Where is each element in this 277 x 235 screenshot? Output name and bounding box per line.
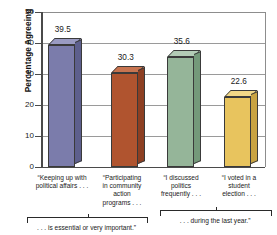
y-tick-label-50: 50: [4, 7, 34, 16]
y-tick-10: [35, 136, 43, 137]
category-label-1-line-1: in community: [88, 182, 156, 190]
bracket-right-stem: [216, 207, 217, 211]
bar-chart: Percentage Agreeing 50 40 30 20 10 0 39.…: [0, 0, 277, 235]
bracket-left: [27, 217, 148, 223]
y-axis-line: [41, 12, 43, 168]
y-tick-label-30: 30: [4, 69, 34, 78]
bracket-right: [160, 210, 272, 216]
y-axis-title: Percentage Agreeing: [24, 0, 33, 111]
category-label-1-line-2: action: [88, 190, 156, 198]
category-label-2-line-2: frequently . . .: [148, 190, 214, 198]
bar-3-front: [224, 97, 251, 167]
category-label-2-line-1: politics: [148, 182, 214, 190]
bar-0[interactable]: 39.5: [48, 45, 75, 167]
category-label-3-line-2: election . . .: [207, 190, 271, 198]
y-tick-0: [35, 167, 43, 168]
bar-1[interactable]: 30.3: [111, 73, 138, 167]
bar-1-value-label: 30.3: [118, 53, 134, 62]
y-tick-20: [35, 105, 43, 106]
bar-0-value-label: 39.5: [55, 25, 71, 34]
y-tick-label-40: 40: [4, 38, 34, 47]
bar-0-side: [75, 39, 82, 164]
category-label-1: “Participating in community action progr…: [88, 174, 156, 207]
y-tick-label-10: 10: [4, 131, 34, 140]
bar-3-side: [251, 91, 258, 164]
y-tick-label-0: 0: [4, 162, 34, 171]
category-label-3-line-1: student: [207, 182, 271, 190]
category-label-1-line-0: “Participating: [88, 174, 156, 182]
y-tick-40: [35, 43, 43, 44]
bar-0-front: [48, 45, 75, 167]
axis-baseline: [41, 167, 265, 168]
bracket-left-label: . . . is essential or very important.”: [27, 224, 146, 231]
bracket-left-stem: [88, 214, 89, 218]
bar-2-side: [194, 51, 201, 164]
bar-1-side: [138, 67, 145, 164]
y-tick-50: [35, 12, 43, 13]
category-label-2-line-0: “I discussed: [148, 174, 214, 182]
y-tick-30: [35, 74, 43, 75]
bar-2-front: [167, 57, 194, 167]
bracket-right-label: . . . during the last year.”: [160, 217, 270, 224]
bar-3[interactable]: 22.6: [224, 97, 251, 167]
y-tick-label-20: 20: [4, 100, 34, 109]
category-label-3: “I voted in a student election . . .: [207, 174, 271, 199]
bar-1-front: [111, 73, 138, 167]
bar-2[interactable]: 35.6: [167, 57, 194, 167]
bar-2-value-label: 35.6: [174, 37, 190, 46]
category-label-2: “I discussed politics frequently . . .: [148, 174, 214, 199]
category-label-3-line-0: “I voted in a: [207, 174, 271, 182]
category-label-1-line-3: programs . . .: [88, 199, 156, 207]
bar-3-value-label: 22.6: [231, 77, 247, 86]
